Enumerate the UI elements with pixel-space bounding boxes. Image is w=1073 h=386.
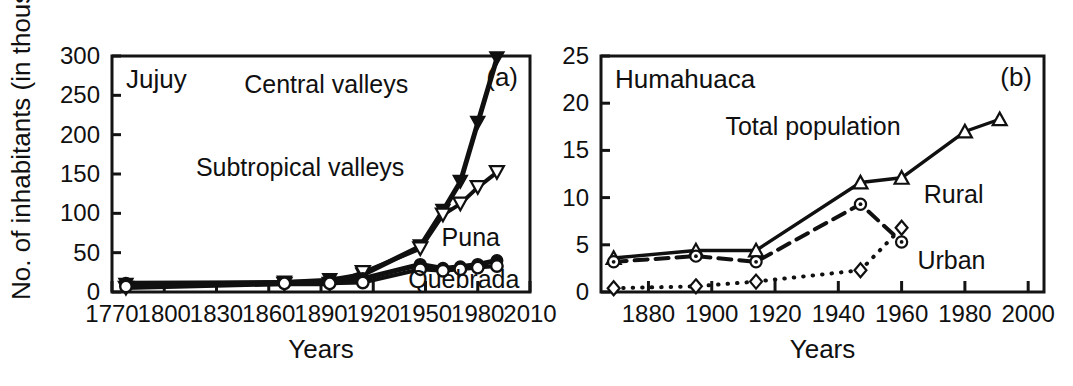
x-tick-label: 2010 [503, 300, 556, 327]
y-tick-label: 250 [60, 81, 100, 108]
series-annotation: Central valleys [244, 70, 408, 98]
series-annotation: Quebrada [408, 265, 519, 293]
series-annotation: Urban [917, 246, 985, 274]
marker-circle-dot [750, 256, 761, 267]
marker-circle-open [324, 278, 335, 289]
y-tick-label: 10 [562, 184, 589, 211]
x-tick-label: 1800 [138, 300, 191, 327]
series-annotation: Total population [725, 112, 900, 140]
series-annotation: Rural [924, 180, 984, 208]
population-figure-svg: No. of inhabitants (in thousands 0501001… [0, 0, 1073, 386]
x-tick-label: 1890 [294, 300, 347, 327]
marker-diamond-open [896, 221, 908, 235]
x-axis-title: Years [288, 334, 354, 364]
marker-circle-dot-center [694, 254, 698, 258]
marker-circle-dot [896, 236, 907, 247]
x-tick-label: 1770 [85, 300, 138, 327]
series-markers-rural [608, 199, 907, 268]
marker-circle-dot-center [859, 202, 863, 206]
y-axis-title: No. of inhabitants (in thousands [6, 0, 36, 300]
marker-triangle-down-filled [471, 117, 485, 130]
x-tick-label: 2000 [1001, 300, 1054, 327]
marker-circle-dot-center [754, 260, 758, 264]
marker-circle-open [120, 281, 131, 292]
panel-a: 0501001502002503001770180018301860189019… [60, 42, 557, 364]
marker-diamond-open [855, 263, 867, 277]
y-tick-label: 300 [60, 42, 100, 69]
x-tick-label: 1880 [622, 300, 675, 327]
marker-circle-dot-center [900, 240, 904, 244]
y-tick-label: 50 [73, 239, 100, 266]
x-tick-label: 1950 [399, 300, 452, 327]
panel-label: (b) [1000, 62, 1032, 92]
marker-circle-open [279, 278, 290, 289]
panel-b: 05101520251880190019201940196019802000Ye… [562, 42, 1055, 364]
x-axis-title: Years [790, 334, 856, 364]
y-tick-label: 0 [576, 278, 589, 305]
series-annotation: Subtropical valleys [196, 153, 404, 181]
marker-circle-open [357, 277, 368, 288]
x-tick-label: 1960 [875, 300, 928, 327]
series-annotation: Puna [442, 223, 500, 251]
marker-circle-dot [855, 199, 866, 210]
x-tick-label: 1940 [812, 300, 865, 327]
x-tick-label: 1900 [685, 300, 738, 327]
x-tick-label: 1920 [347, 300, 400, 327]
y-tick-label: 200 [60, 121, 100, 148]
y-tick-label: 20 [562, 89, 589, 116]
x-tick-label: 1920 [748, 300, 801, 327]
marker-diamond-open [750, 275, 762, 289]
marker-circle-dot [690, 251, 701, 262]
y-tick-label: 100 [60, 199, 100, 226]
figure-container: No. of inhabitants (in thousands 0501001… [0, 0, 1073, 386]
x-tick-label: 1980 [451, 300, 504, 327]
panel-title: Humahuaca [615, 64, 756, 94]
x-tick-label: 1860 [242, 300, 295, 327]
x-tick-label: 1830 [190, 300, 243, 327]
y-tick-label: 15 [562, 136, 589, 163]
marker-circle-dot [608, 256, 619, 267]
x-tick-label: 1980 [938, 300, 991, 327]
y-tick-label: 25 [562, 42, 589, 69]
y-tick-label: 150 [60, 160, 100, 187]
marker-triangle-up-open [993, 113, 1007, 126]
marker-circle-dot-center [612, 260, 616, 264]
y-tick-label: 5 [576, 231, 589, 258]
panel-title: Jujuy [126, 64, 187, 94]
